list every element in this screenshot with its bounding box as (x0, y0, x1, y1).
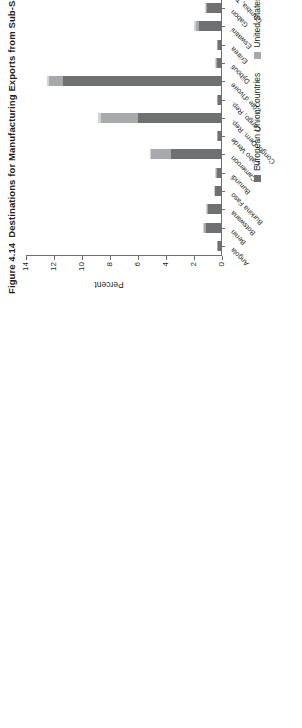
legend-swatch-us (254, 52, 261, 59)
bar-series-group (26, 0, 221, 255)
bar-stack (217, 241, 221, 251)
bar-stack (203, 223, 221, 233)
bar-stack (215, 58, 221, 68)
bar-stack (206, 204, 221, 214)
bar-segment (218, 40, 221, 50)
bar-segment (207, 3, 221, 13)
bar-segment (101, 113, 139, 123)
bar-segment (63, 76, 221, 86)
y-tick-mark (110, 256, 111, 260)
y-tick-label: 8 (106, 262, 114, 280)
figure-title: Figure 4.14Destinations for Manufacturin… (6, 0, 17, 294)
x-tick-mark (222, 228, 225, 229)
y-tick-mark (26, 256, 27, 260)
bar-stack (214, 186, 221, 196)
legend-item: United States (252, 0, 262, 59)
y-tick-label: 12 (50, 262, 58, 280)
x-tick-mark (222, 26, 225, 27)
legend-label: United States (252, 0, 262, 48)
figure-number: Figure 4.14 (6, 243, 17, 294)
legend-item: European Union countries (252, 73, 262, 182)
bar-stack (150, 149, 221, 159)
y-tick-mark (194, 256, 195, 260)
x-tick-mark (222, 118, 225, 119)
y-tick-label: 4 (162, 262, 170, 280)
bar-segment (218, 95, 221, 105)
y-axis-title: Percent (94, 280, 123, 290)
bar-segment (206, 223, 221, 233)
figure-container: Figure 4.14Destinations for Manufacturin… (0, 0, 302, 302)
x-axis-line (221, 0, 222, 256)
bar-segment (218, 131, 221, 141)
y-tick-mark (166, 256, 167, 260)
y-tick-mark (138, 256, 139, 260)
bar-segment (208, 204, 221, 214)
bar-segment (171, 149, 221, 159)
y-tick-label: 2 (190, 262, 198, 280)
bar-stack (217, 95, 221, 105)
x-tick-mark (222, 173, 225, 174)
bar-stack (217, 131, 221, 141)
y-tick-mark (222, 256, 223, 260)
y-tick-label: 10 (78, 262, 86, 280)
figure-title-text: Destinations for Manufacturing Exports f… (6, 0, 17, 238)
chart-legend: European Union countriesUnited StatesChi… (252, 0, 262, 182)
legend-label: European Union countries (252, 73, 262, 171)
x-tick-mark (222, 136, 225, 137)
x-tick-mark (222, 63, 225, 64)
x-tick-mark (222, 246, 225, 247)
x-tick-mark (222, 81, 225, 82)
bar-segment (138, 113, 221, 123)
bar-segment (218, 241, 221, 251)
x-tick-mark (222, 100, 225, 101)
bar-stack (194, 21, 221, 31)
bar-segment (151, 149, 171, 159)
chart-plot-area: Percent 02468101214 AngolaBeninBotswanaB… (26, 0, 222, 256)
y-axis-line (26, 255, 222, 256)
x-tick-mark (222, 209, 225, 210)
bar-stack (205, 3, 221, 13)
y-tick-label: 14 (22, 262, 30, 280)
bar-segment (199, 21, 221, 31)
x-tick-mark (222, 191, 225, 192)
legend-swatch-eu (254, 175, 261, 182)
bar-stack (98, 113, 221, 123)
bar-segment (49, 76, 63, 86)
bar-segment (215, 186, 221, 196)
bar-segment (217, 58, 221, 68)
bar-stack (47, 76, 221, 86)
x-tick-mark (222, 154, 225, 155)
bar-stack (215, 168, 221, 178)
y-tick-mark (54, 256, 55, 260)
bar-segment (217, 168, 221, 178)
x-tick-mark (222, 8, 225, 9)
y-tick-mark (82, 256, 83, 260)
y-tick-label: 6 (134, 262, 142, 280)
x-tick-mark (222, 45, 225, 46)
bar-stack (217, 40, 221, 50)
y-tick-label: 0 (218, 262, 226, 280)
